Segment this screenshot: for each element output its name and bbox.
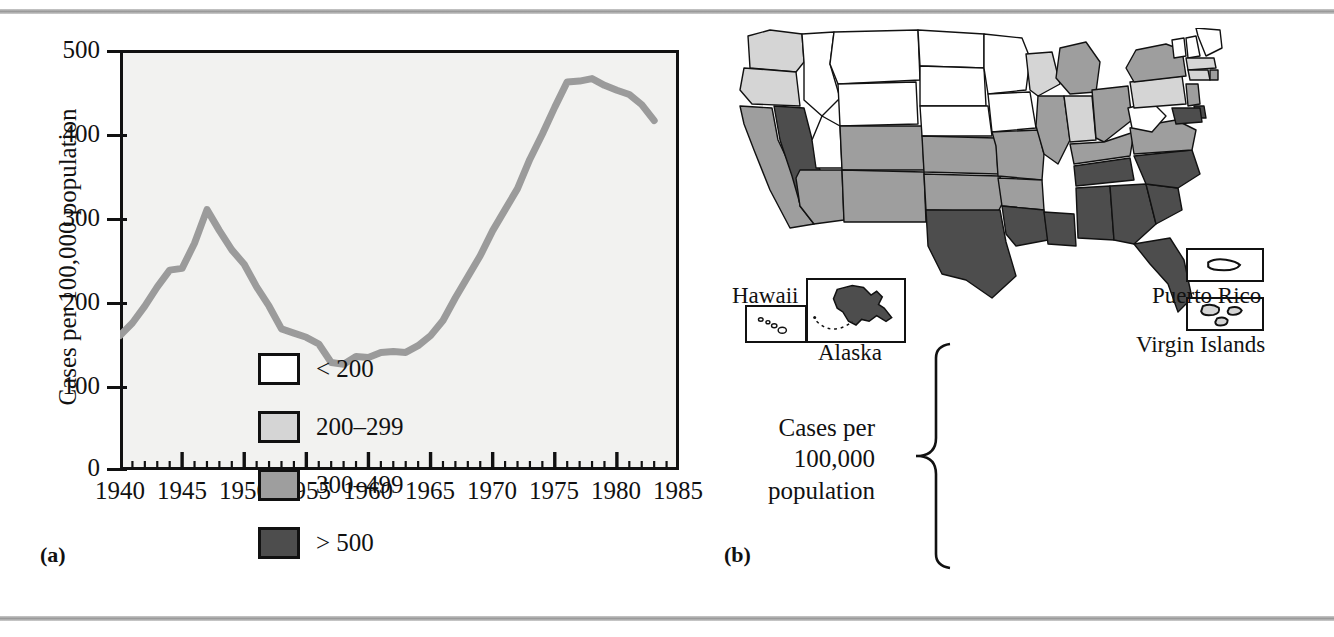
- legend-item-200-299[interactable]: 200–299: [258, 411, 404, 443]
- y-axis-title: Cases per 100,000 population: [54, 92, 82, 422]
- legend-item-lt-200[interactable]: < 200: [258, 353, 374, 385]
- legend-brace: [916, 340, 956, 572]
- state-oh: [1092, 86, 1132, 142]
- state-wi: [1026, 52, 1060, 96]
- state-ok: [924, 174, 1002, 212]
- state-md: [1172, 108, 1202, 124]
- y-tick-100: [107, 386, 127, 389]
- inset-caption-puerto-rico: Puerto Rico: [1152, 283, 1261, 309]
- map-legend: < 200 200–299 300–499 > 500: [226, 345, 486, 570]
- inset-box-hawaii: [745, 305, 807, 343]
- state-ut: [812, 116, 842, 168]
- state-nh: [1186, 36, 1200, 58]
- legend-label-gt-500: > 500: [316, 529, 374, 557]
- y-tick-200: [107, 302, 127, 305]
- state-or: [740, 68, 800, 106]
- state-ar: [998, 178, 1044, 210]
- legend-label-200-299: 200–299: [316, 413, 404, 441]
- panel-a-caption: (a): [40, 542, 66, 568]
- state-mi: [1056, 42, 1100, 94]
- state-mt: [830, 30, 920, 84]
- legend-swatch-200-299: [258, 411, 300, 443]
- inset-box-alaska: [806, 278, 906, 343]
- state-tx: [926, 210, 1016, 298]
- state-sd: [920, 66, 986, 106]
- bottom-divider-rule: [0, 616, 1334, 621]
- legend-title: Cases per 100,000 population: [700, 412, 875, 506]
- state-nj: [1186, 84, 1200, 106]
- state-wa: [748, 30, 804, 72]
- state-nc: [1134, 150, 1200, 188]
- legend-swatch-300-499: [258, 469, 300, 501]
- state-nm: [842, 170, 926, 222]
- state-vt: [1172, 38, 1186, 58]
- legend-swatch-lt-200: [258, 353, 300, 385]
- state-ms: [1044, 212, 1076, 246]
- state-mo: [992, 130, 1044, 180]
- state-ks: [922, 136, 998, 174]
- legend-label-lt-200: < 200: [316, 355, 374, 383]
- state-al: [1076, 186, 1114, 240]
- legend-swatch-gt-500: [258, 527, 300, 559]
- inset-caption-alaska: Alaska: [818, 340, 882, 366]
- panel-b-caption: (b): [724, 542, 751, 568]
- y-tick-300: [107, 218, 127, 221]
- inset-caption-virgin-islands: Virgin Islands: [1136, 332, 1265, 358]
- y-tick-400: [107, 134, 127, 137]
- state-wy: [838, 82, 918, 126]
- state-ma: [1186, 58, 1216, 70]
- legend-label-300-499: 300–499: [316, 471, 404, 499]
- inset-box-puerto-rico: [1186, 248, 1264, 282]
- state-co: [840, 126, 924, 170]
- state-ne: [920, 106, 992, 136]
- state-in: [1064, 96, 1096, 142]
- legend-title-line2: 100,000 population: [700, 443, 875, 506]
- legend-title-line1: Cases per: [700, 412, 875, 443]
- legend-item-300-499[interactable]: 300–499: [258, 469, 404, 501]
- state-ct: [1188, 70, 1210, 80]
- state-ia: [988, 92, 1036, 132]
- state-la: [1002, 206, 1048, 246]
- legend-item-gt-500[interactable]: > 500: [258, 527, 374, 559]
- inset-caption-hawaii: Hawaii: [732, 283, 798, 309]
- y-tick-500: [107, 50, 127, 53]
- state-me: [1196, 28, 1222, 56]
- state-mn: [984, 34, 1030, 94]
- state-ri: [1210, 70, 1218, 80]
- state-nd: [918, 30, 984, 68]
- y-axis-label-500: 500: [38, 37, 100, 62]
